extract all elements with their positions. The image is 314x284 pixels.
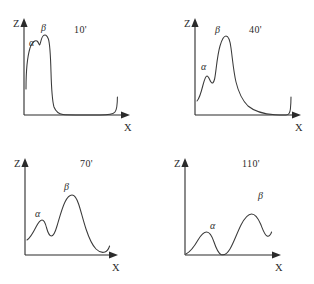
y-axis-label: Z — [184, 18, 190, 29]
y-axis-label: Z — [14, 158, 20, 169]
beta-peak-label: β — [214, 24, 220, 35]
x-axis-label: X — [295, 122, 303, 133]
plot-panel-40min: α β 40' Z X — [157, 0, 314, 142]
plot-panel-10min: α β 10' Z X — [0, 0, 157, 142]
plot-panel-70min: α β 70' Z X — [0, 142, 157, 284]
alpha-peak-label: α — [35, 208, 41, 219]
x-axis-label: X — [124, 122, 132, 133]
time-label-10min: 10' — [74, 24, 87, 35]
curve-40min — [197, 36, 291, 115]
beta-peak-label: β — [40, 22, 46, 33]
y-axis-arrow-icon — [21, 158, 28, 167]
curve-10min — [26, 35, 117, 115]
time-label-40min: 40' — [249, 24, 262, 35]
x-axis-arrow-icon — [109, 251, 118, 258]
x-axis-arrow-icon — [272, 251, 281, 258]
time-label-70min: 70' — [80, 158, 93, 169]
curve-110min — [186, 214, 272, 255]
beta-peak-label: β — [63, 181, 69, 192]
time-label-110min: 110' — [242, 158, 260, 169]
alpha-peak-label: α — [29, 37, 35, 48]
y-axis-arrow-icon — [181, 158, 188, 167]
x-axis-arrow-icon — [292, 111, 301, 118]
y-axis-arrow-icon — [20, 18, 27, 27]
y-axis-label: Z — [174, 158, 180, 169]
alpha-peak-label: α — [201, 61, 207, 72]
x-axis-arrow-icon — [121, 111, 130, 118]
figure-container: α β 10' Z X α β 40' Z X — [0, 0, 314, 284]
x-axis-label: X — [275, 262, 283, 273]
y-axis-arrow-icon — [191, 18, 198, 27]
x-axis-label: X — [112, 262, 120, 273]
y-axis-label: Z — [13, 18, 19, 29]
alpha-peak-label: α — [210, 220, 216, 231]
curve-70min — [27, 195, 110, 252]
plot-panel-110min: α β 110' Z X — [157, 142, 314, 284]
beta-peak-label: β — [257, 190, 263, 201]
